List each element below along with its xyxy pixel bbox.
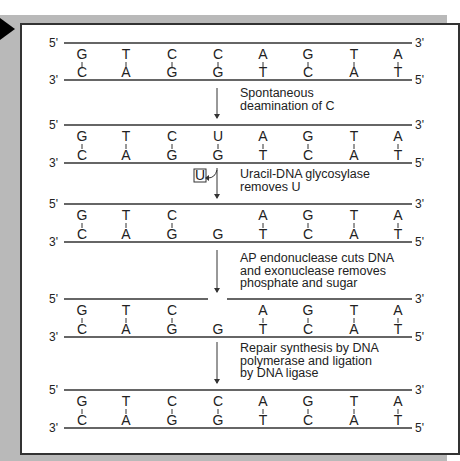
five-prime-label: 5' <box>415 156 424 170</box>
base-top: T <box>350 207 359 223</box>
five-prime-label: 5' <box>415 330 424 344</box>
base-top: T <box>350 302 359 318</box>
three-prime-label: 3' <box>49 330 58 344</box>
dna-strand-4: 5'3'3'5'GCTACGGATGCTAAT <box>49 292 424 344</box>
base-top: G <box>77 302 88 318</box>
base-bottom: T <box>394 321 403 337</box>
base-bottom: G <box>213 412 224 428</box>
base-bottom: G <box>213 226 224 242</box>
three-prime-label: 3' <box>49 235 58 249</box>
base-bottom: T <box>259 226 268 242</box>
dna-strand-1: 5'3'3'5'GCTACGCGATGCTAAT <box>49 36 424 87</box>
step-description: by DNA ligase <box>240 366 319 380</box>
removed-uracil-label: U <box>195 167 205 183</box>
base-top: A <box>258 393 268 409</box>
base-top: G <box>303 46 314 62</box>
base-bottom: C <box>77 412 87 428</box>
base-top: A <box>258 46 268 62</box>
excision-arrow-icon <box>208 170 217 178</box>
five-prime-label: 5' <box>415 73 424 87</box>
base-top: A <box>258 302 268 318</box>
three-prime-label: 3' <box>49 73 58 87</box>
base-bottom: G <box>167 147 178 163</box>
base-top: C <box>167 302 177 318</box>
base-top: C <box>167 46 177 62</box>
base-bottom: C <box>303 226 313 242</box>
base-top: C <box>213 393 223 409</box>
base-bottom: T <box>259 147 268 163</box>
arrowhead-icon <box>214 194 220 199</box>
base-top: C <box>167 393 177 409</box>
base-bottom: A <box>349 412 359 428</box>
five-prime-label: 5' <box>415 421 424 435</box>
base-bottom: A <box>121 412 131 428</box>
base-bottom: T <box>259 412 268 428</box>
base-top: C <box>213 46 223 62</box>
base-top: G <box>303 207 314 223</box>
base-top: C <box>167 128 177 144</box>
base-bottom: C <box>303 412 313 428</box>
base-top: A <box>393 46 403 62</box>
base-bottom: C <box>77 147 87 163</box>
base-top: G <box>303 302 314 318</box>
three-prime-label: 3' <box>49 421 58 435</box>
base-bottom: T <box>394 412 403 428</box>
base-top: G <box>77 393 88 409</box>
base-bottom: A <box>349 226 359 242</box>
step-description: phosphate and sugar <box>240 276 357 290</box>
arrowhead-icon <box>214 288 220 293</box>
base-top: G <box>303 393 314 409</box>
base-top: A <box>393 302 403 318</box>
five-prime-label: 5' <box>49 118 58 132</box>
base-bottom: A <box>349 147 359 163</box>
base-bottom: A <box>121 321 131 337</box>
base-bottom: G <box>167 321 178 337</box>
base-top: U <box>213 128 223 144</box>
dna-strand-3: 5'3'3'5'GCTACGGATGCTAAT <box>49 197 424 249</box>
base-top: G <box>77 207 88 223</box>
three-prime-label: 3' <box>49 156 58 170</box>
three-prime-label: 3' <box>415 383 424 397</box>
base-bottom: G <box>167 412 178 428</box>
base-top: T <box>122 46 131 62</box>
base-bottom: A <box>121 147 131 163</box>
base-top: A <box>393 393 403 409</box>
base-bottom: T <box>259 321 268 337</box>
five-prime-label: 5' <box>49 197 58 211</box>
base-bottom: T <box>394 226 403 242</box>
base-top: A <box>393 128 403 144</box>
base-top: T <box>350 46 359 62</box>
base-top: T <box>350 128 359 144</box>
step-description: removes U <box>240 180 300 194</box>
five-prime-label: 5' <box>49 36 58 50</box>
base-top: T <box>122 393 131 409</box>
base-top: T <box>350 393 359 409</box>
base-top: G <box>303 128 314 144</box>
base-top: A <box>393 207 403 223</box>
base-bottom: C <box>303 321 313 337</box>
dna-strand-2: 5'3'3'5'GCTACGUGATGCTAAT <box>49 118 424 170</box>
three-prime-label: 3' <box>415 197 424 211</box>
base-bottom: A <box>121 226 131 242</box>
base-top: C <box>167 207 177 223</box>
arrowhead-icon <box>214 114 220 119</box>
three-prime-label: 3' <box>415 118 424 132</box>
five-prime-label: 5' <box>415 235 424 249</box>
arrowhead-icon <box>214 379 220 384</box>
base-top: T <box>122 302 131 318</box>
base-bottom: G <box>213 321 224 337</box>
base-top: G <box>77 128 88 144</box>
three-prime-label: 3' <box>415 292 424 306</box>
base-bottom: C <box>77 321 87 337</box>
base-bottom: G <box>213 147 224 163</box>
five-prime-label: 5' <box>49 383 58 397</box>
base-bottom: C <box>77 226 87 242</box>
step-description: deamination of C <box>240 99 335 113</box>
three-prime-label: 3' <box>415 36 424 50</box>
base-top: A <box>258 128 268 144</box>
base-bottom: T <box>394 147 403 163</box>
base-top: T <box>122 128 131 144</box>
base-top: G <box>77 46 88 62</box>
base-bottom: G <box>167 226 178 242</box>
